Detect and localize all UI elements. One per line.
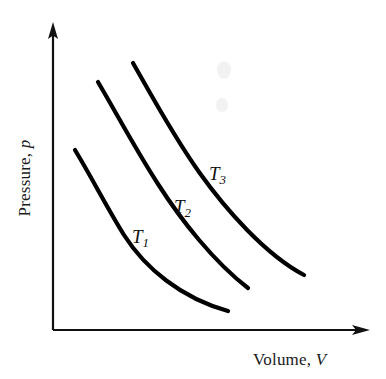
y-axis-label: Pressure, p	[15, 140, 34, 217]
pv-isotherm-figure: T1 T2 T3 Pressure, p Volume, V	[0, 0, 386, 379]
figure-background	[0, 0, 386, 379]
y-axis-label-text: Pressure,	[15, 148, 34, 216]
y-axis-label-symbol: p	[15, 140, 34, 150]
x-axis-label-text: Volume,	[253, 350, 316, 369]
chart-canvas: T1 T2 T3 Pressure, p Volume, V	[0, 0, 386, 379]
x-axis-label: Volume, V	[253, 350, 329, 369]
curve-label-t1-sub: 1	[143, 235, 150, 250]
curve-label-t2-sub: 2	[185, 205, 192, 220]
curve-label-t3-sub: 3	[219, 172, 227, 187]
